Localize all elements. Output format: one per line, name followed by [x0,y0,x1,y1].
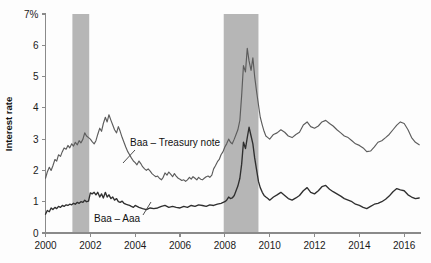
chart-background [0,0,431,263]
recession-band-1 [224,14,259,233]
x-tick-label-2014: 2014 [348,240,371,251]
y-axis-title: Interest rate [3,97,14,151]
series-label-baa-aaa: Baa – Aaa [94,213,141,224]
y-tick-label-3: 3 [33,134,39,145]
y-tick-label-6: 6 [33,40,39,51]
x-tick-label-2010: 2010 [259,240,282,251]
x-tick-label-2004: 2004 [124,240,147,251]
y-tick-label-0: 0 [33,228,39,239]
y-tick-label-5: 5 [33,71,39,82]
x-tick-label-2006: 2006 [169,240,192,251]
x-tick-label-2012: 2012 [303,240,326,251]
chart-figure: 01234567% 200020022004200620082010201220… [0,0,431,263]
y-tick-label-7%: 7% [24,9,39,20]
x-tick-label-2000: 2000 [34,240,57,251]
interest-rate-spread-chart: 01234567% 200020022004200620082010201220… [0,0,431,263]
x-tick-label-2008: 2008 [214,240,237,251]
y-tick-label-4: 4 [33,102,39,113]
x-tick-label-2002: 2002 [79,240,102,251]
x-tick-label-2016: 2016 [393,240,416,251]
series-label-baa-treasury: Baa – Treasury note [130,137,220,148]
y-tick-label-2: 2 [33,165,39,176]
recession-band-0 [72,14,89,233]
y-tick-label-1: 1 [33,196,39,207]
